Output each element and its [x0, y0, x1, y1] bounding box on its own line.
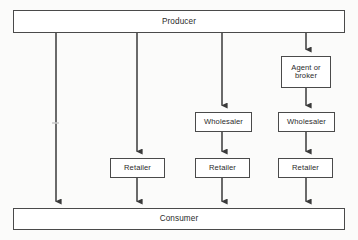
node-consumer-label: Consumer — [160, 214, 199, 223]
node-producer: Producer — [13, 10, 345, 33]
node-wholesaler-a: Wholesaler — [195, 112, 252, 132]
node-retailer-b: Retailer — [195, 158, 250, 178]
node-wholesaler-a-label: Wholesaler — [204, 118, 243, 127]
distribution-channel-diagram: Producer Agent or broker Wholesaler Whol… — [0, 0, 358, 240]
node-retailer-c: Retailer — [278, 158, 333, 178]
node-wholesaler-b: Wholesaler — [278, 112, 335, 132]
node-producer-label: Producer — [162, 17, 196, 26]
node-agent-or-broker-label: Agent or broker — [291, 64, 321, 81]
node-wholesaler-b-label: Wholesaler — [287, 118, 326, 127]
node-agent-or-broker: Agent or broker — [281, 56, 331, 88]
node-consumer: Consumer — [13, 208, 345, 230]
node-retailer-a: Retailer — [110, 158, 165, 178]
scan-artifact-mark — [52, 122, 59, 124]
node-retailer-b-label: Retailer — [209, 164, 236, 173]
node-retailer-c-label: Retailer — [292, 164, 319, 173]
node-retailer-a-label: Retailer — [124, 164, 151, 173]
